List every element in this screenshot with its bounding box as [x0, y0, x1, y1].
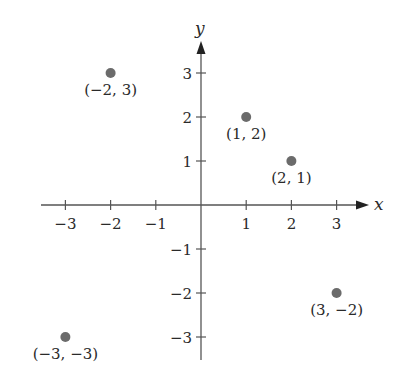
- x-tick-label: 3: [332, 215, 342, 233]
- data-point: (3, −2): [310, 288, 363, 319]
- point-label: (−3, −3): [33, 345, 98, 363]
- point-label: (3, −2): [310, 301, 363, 319]
- point-marker-icon: [106, 68, 116, 78]
- y-axis-arrow-icon: [197, 41, 206, 54]
- data-point: (−3, −3): [33, 332, 98, 363]
- data-points: (−2, 3)(1, 2)(2, 1)(3, −2)(−3, −3): [33, 68, 363, 363]
- point-label: (2, 1): [271, 169, 311, 187]
- x-axis-arrow-icon: [356, 201, 369, 210]
- point-marker-icon: [60, 332, 70, 342]
- point-label: (1, 2): [226, 125, 266, 143]
- point-label: (−2, 3): [84, 81, 137, 99]
- y-tick-label: 3: [182, 65, 192, 83]
- y-tick-label: 2: [182, 109, 192, 127]
- data-point: (−2, 3): [84, 68, 137, 99]
- y-tick-label: 1: [182, 153, 192, 171]
- data-point: (1, 2): [226, 112, 266, 143]
- x-tick-label: 2: [287, 215, 297, 233]
- x-tick-label: −3: [54, 215, 76, 233]
- x-tick-label: 1: [241, 215, 251, 233]
- x-tick-label: −2: [100, 215, 122, 233]
- x-axis-label: x: [374, 194, 384, 214]
- coordinate-plane: x y −3−2−1123 −3−2−1123 (−2, 3)(1, 2)(2,…: [0, 0, 405, 379]
- point-marker-icon: [332, 288, 342, 298]
- y-tick-label: −1: [170, 241, 192, 259]
- point-marker-icon: [241, 112, 251, 122]
- y-tick-label: −2: [170, 285, 192, 303]
- data-point: (2, 1): [271, 156, 311, 187]
- y-axis-label: y: [194, 18, 205, 38]
- point-marker-icon: [286, 156, 296, 166]
- y-tick-label: −3: [170, 329, 192, 347]
- x-tick-label: −1: [145, 215, 167, 233]
